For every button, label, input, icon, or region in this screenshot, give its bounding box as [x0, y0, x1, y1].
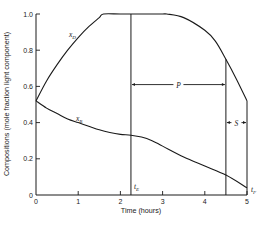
series-label-x-d: xD — [68, 30, 76, 40]
x-tick-label: 4 — [203, 198, 207, 205]
y-tick-label: 0.6 — [23, 83, 33, 90]
x-tick-label: 5 — [245, 198, 249, 205]
x-tick-label: 0 — [34, 198, 38, 205]
y-axis-title: Compositions (mole fraction light compon… — [2, 32, 11, 176]
span-label-p: P — [175, 81, 181, 90]
x-tick-label: 3 — [161, 198, 165, 205]
composition-chart: 01234500.20.40.60.81.0 xDxB tEtFPS Time … — [0, 0, 270, 226]
arrow-right-icon — [222, 83, 225, 86]
y-tick-label: 0.2 — [23, 155, 33, 162]
time-label-f: tF — [251, 185, 257, 195]
x-axis-title: Time (hours) — [121, 206, 161, 215]
series-label-subscript: B — [79, 119, 82, 124]
series-line-x-b — [36, 101, 247, 188]
arrow-left-icon — [227, 121, 230, 124]
arrow-left-icon — [132, 83, 135, 86]
y-tick-label: 0.4 — [23, 119, 33, 126]
x-tick-label: 2 — [118, 198, 122, 205]
axes: 01234500.20.40.60.81.0 — [23, 11, 249, 206]
series-group: xDxB — [36, 14, 247, 188]
annotations: tEtFPS — [131, 14, 257, 195]
x-tick-label: 1 — [76, 198, 80, 205]
y-tick-label: 0 — [29, 192, 33, 199]
y-tick-label: 0.8 — [23, 47, 33, 54]
arrow-right-icon — [243, 121, 246, 124]
series-label-subscript: D — [71, 35, 76, 40]
span-label-s: S — [235, 119, 239, 128]
time-label-subscript: E — [135, 187, 139, 192]
series-line-x-d — [36, 14, 247, 101]
time-label-subscript: F — [252, 190, 257, 195]
time-label-e: tE — [134, 182, 139, 192]
series-label-x-b: xB — [75, 114, 82, 124]
y-tick-label: 1.0 — [23, 11, 33, 18]
